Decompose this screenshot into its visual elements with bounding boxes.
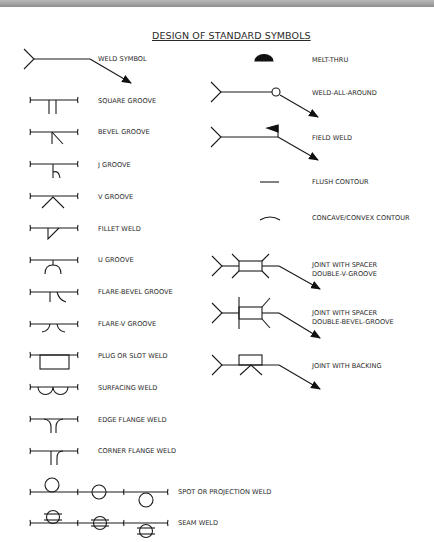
label-flare-v-groove: FLARE-V GROOVE bbox=[98, 320, 156, 329]
label-weld-symbol: WELD SYMBOL bbox=[98, 55, 147, 64]
label-j-groove: J GROOVE bbox=[98, 161, 131, 170]
joint-spacer-double-v-icon bbox=[212, 254, 320, 289]
label-joint-with-backing: JOINT WITH BACKING bbox=[312, 362, 382, 371]
label-concave-convex-contour: CONCAVE/CONVEX CONTOUR bbox=[312, 214, 410, 223]
label-corner-flange-weld: CORNER FLANGE WELD bbox=[98, 447, 176, 456]
label-flush-contour: FLUSH CONTOUR bbox=[312, 178, 369, 187]
j-groove-icon bbox=[30, 161, 78, 178]
label-fillet-weld: FILLET WELD bbox=[98, 225, 141, 234]
concave-convex-contour-icon bbox=[260, 217, 280, 220]
edge-flange-weld-icon bbox=[30, 416, 78, 433]
label-surfacing-weld: SURFACING WELD bbox=[98, 384, 157, 393]
label-square-groove: SQUARE GROOVE bbox=[98, 97, 156, 106]
fillet-weld-icon bbox=[30, 225, 78, 239]
label-joint-spacer-double-v-line2: DOUBLE-V-GROOVE bbox=[312, 270, 377, 279]
melt-thru-icon bbox=[255, 55, 273, 61]
label-melt-thru: MELT-THRU bbox=[312, 56, 348, 65]
joint-with-backing-icon bbox=[212, 355, 320, 389]
spot-or-projection-weld-icon bbox=[30, 478, 168, 507]
label-bevel-groove: BEVEL GROOVE bbox=[98, 128, 150, 137]
u-groove-icon bbox=[30, 257, 78, 274]
label-edge-flange-weld: EDGE FLANGE WELD bbox=[98, 416, 166, 425]
flare-bevel-groove-icon bbox=[30, 289, 78, 302]
label-seam-weld: SEAM WELD bbox=[178, 519, 218, 528]
label-plug-or-slot-weld: PLUG OR SLOT WELD bbox=[98, 352, 168, 361]
corner-flange-weld-icon bbox=[30, 448, 78, 465]
label-spot-or-projection-weld: SPOT OR PROJECTION WELD bbox=[178, 488, 271, 497]
joint-spacer-double-bevel-icon bbox=[212, 297, 320, 338]
seam-weld-icon bbox=[30, 511, 168, 538]
label-v-groove: V GROOVE bbox=[98, 193, 133, 202]
label-joint-spacer-double-v-line1: JOINT WITH SPACER bbox=[312, 261, 377, 270]
surfacing-weld-icon bbox=[30, 384, 78, 395]
label-flare-bevel-groove: FLARE-BEVEL GROOVE bbox=[98, 288, 173, 297]
label-field-weld: FIELD WELD bbox=[312, 134, 352, 143]
label-weld-all-around: WELD-ALL-AROUND bbox=[312, 89, 377, 98]
label-u-groove: U GROOVE bbox=[98, 256, 134, 265]
bevel-groove-icon bbox=[30, 129, 78, 144]
weld-all-around-icon bbox=[211, 82, 318, 117]
flare-v-groove-icon bbox=[30, 321, 78, 332]
plug-or-slot-weld-icon bbox=[30, 352, 78, 369]
square-groove-icon bbox=[30, 97, 78, 114]
label-joint-spacer-double-bevel-line1: JOINT WITH SPACER bbox=[312, 309, 377, 318]
v-groove-icon bbox=[30, 193, 78, 208]
label-joint-spacer-double-bevel-line2: DOUBLE-BEVEL-GROOVE bbox=[312, 318, 394, 327]
field-weld-icon bbox=[211, 125, 318, 160]
